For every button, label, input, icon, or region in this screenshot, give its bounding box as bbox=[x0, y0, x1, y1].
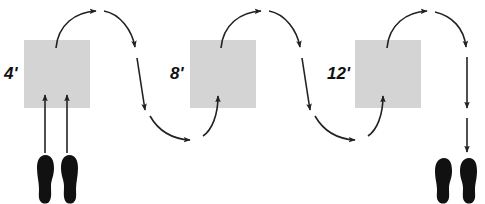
arc-down-after-box-3 bbox=[435, 12, 466, 47]
drill-diagram: 4' 8' 12' bbox=[0, 0, 485, 204]
diag-down-1 bbox=[137, 58, 145, 110]
box-4ft bbox=[24, 40, 90, 108]
footprint-left-end bbox=[435, 158, 452, 204]
distance-label-4ft: 4' bbox=[4, 65, 18, 82]
box-12ft bbox=[355, 40, 421, 108]
distance-label-12ft: 12' bbox=[327, 65, 350, 82]
arc-under-2 bbox=[315, 116, 355, 140]
box-8ft bbox=[190, 40, 256, 108]
footprint-right-end bbox=[460, 158, 477, 204]
start-footprints bbox=[37, 155, 78, 204]
diag-down-2 bbox=[302, 58, 310, 110]
footprint-left-start bbox=[37, 155, 54, 204]
arc-down-after-box-2 bbox=[269, 11, 300, 47]
arc-under-1 bbox=[150, 116, 190, 140]
path-diagram-svg bbox=[0, 0, 485, 204]
arc-down-after-box-1 bbox=[104, 11, 135, 47]
distance-label-8ft: 8' bbox=[170, 65, 184, 82]
end-footprints bbox=[435, 158, 477, 204]
footprint-right-start bbox=[61, 155, 78, 204]
